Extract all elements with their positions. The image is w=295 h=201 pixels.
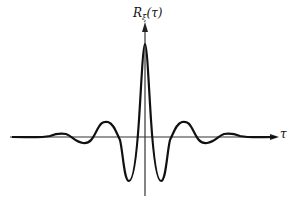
y-axis-label: Rξ(τ) [133, 6, 162, 22]
autocorrelation-diagram [0, 0, 295, 201]
autocorrelation-curve [12, 44, 276, 181]
r-axis-arrow-icon [142, 22, 148, 32]
x-axis-label: τ [280, 127, 287, 141]
